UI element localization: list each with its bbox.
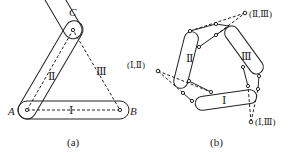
- instant-center-label-ii-iii: (Ⅱ,Ⅲ): [249, 9, 272, 19]
- link-label-ii-b: Ⅱ: [186, 52, 193, 64]
- diagram-canvas: C A B Ⅰ Ⅱ Ⅲ (a): [0, 0, 297, 163]
- joint-c: [71, 28, 74, 31]
- joints-b: [156, 11, 260, 124]
- vertex-label-c: C: [69, 6, 77, 18]
- instant-center-label-i-ii: (Ⅰ,Ⅱ): [127, 60, 145, 70]
- link-label-i-a: Ⅰ: [69, 104, 73, 116]
- link-label-iii-a: Ⅲ: [96, 65, 107, 77]
- rod-ii-i-a: [189, 81, 211, 92]
- figure-b: [156, 11, 266, 124]
- caption-a: (a): [67, 136, 80, 149]
- vertex-label-a: A: [7, 105, 15, 117]
- instant-center-i-ii: [156, 69, 160, 73]
- joint-a: [25, 108, 28, 111]
- instant-center-ii-iii: [243, 11, 247, 15]
- instant-center-label-i-iii: (Ⅰ,Ⅲ): [255, 117, 275, 127]
- vertex-label-b: B: [130, 105, 137, 117]
- joint-b: [118, 108, 121, 111]
- link-label-iii-b: Ⅲ: [241, 50, 252, 62]
- link-label-i-b: Ⅰ: [222, 94, 226, 106]
- link-label-ii-a: Ⅱ: [48, 70, 55, 82]
- caption-b: (b): [210, 136, 223, 149]
- rod-iii-i-a: [243, 67, 248, 86]
- instant-center-i-iii: [249, 120, 253, 124]
